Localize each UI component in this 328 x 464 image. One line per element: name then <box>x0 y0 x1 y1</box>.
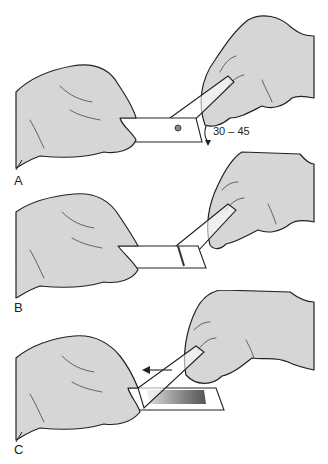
panel-label-c: C <box>14 442 23 457</box>
left-hand-glove <box>16 194 138 298</box>
arrow-left-icon <box>142 366 150 374</box>
panel-c: C <box>0 290 328 464</box>
left-hand-glove <box>16 336 140 440</box>
panel-b-illustration <box>0 150 328 310</box>
panel-b: B <box>0 150 328 310</box>
right-hand-glove <box>184 290 314 383</box>
panel-c-illustration <box>0 290 328 464</box>
right-hand-glove <box>201 16 314 126</box>
blood-drop <box>175 125 181 131</box>
angle-arc-icon <box>205 126 208 142</box>
angle-annotation: 30 – 45 <box>213 125 250 137</box>
angle-arrow-icon <box>205 140 211 146</box>
right-hand-glove <box>208 152 314 249</box>
